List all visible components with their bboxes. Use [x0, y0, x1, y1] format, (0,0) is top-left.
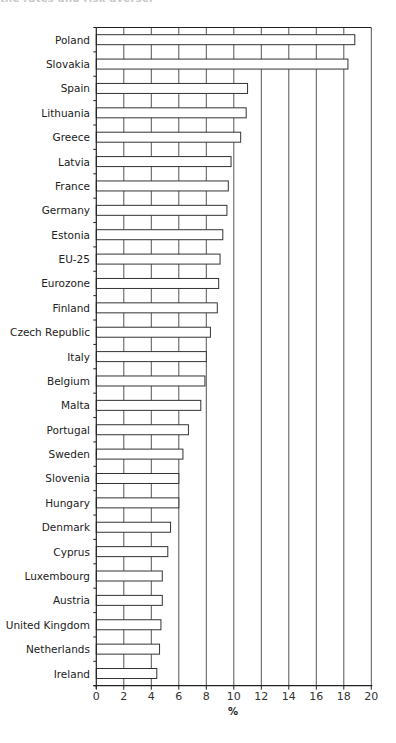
category-label: Greece — [53, 131, 90, 143]
category-label: Estonia — [51, 229, 90, 241]
bar — [96, 595, 162, 605]
category-label: Germany — [42, 204, 90, 216]
x-tick-label: 2 — [120, 691, 127, 703]
x-tick-label: 0 — [93, 691, 100, 703]
bar — [96, 352, 206, 362]
bar — [96, 376, 205, 386]
category-label: Denmark — [42, 521, 90, 533]
bar — [96, 473, 179, 483]
category-label: Sweden — [49, 448, 91, 460]
bar — [96, 205, 227, 215]
x-tick-label: 10 — [227, 691, 241, 703]
bar — [96, 230, 223, 240]
bar — [96, 108, 246, 118]
category-label: EU-25 — [59, 253, 90, 265]
bar — [96, 498, 179, 508]
category-label: Slovakia — [46, 58, 90, 70]
x-tick-label: 4 — [148, 691, 155, 703]
category-label: Lithuania — [41, 107, 90, 119]
x-tick-label: 8 — [203, 691, 210, 703]
bar — [96, 522, 170, 532]
category-label: Hungary — [45, 497, 90, 509]
category-label: Austria — [53, 594, 90, 606]
category-label: Latvia — [58, 156, 90, 168]
bar — [96, 181, 228, 191]
bar — [96, 278, 218, 288]
bar — [96, 157, 231, 167]
bar — [96, 132, 240, 142]
category-label: Luxembourg — [25, 570, 90, 582]
category-label: France — [55, 180, 90, 192]
category-label: Poland — [55, 34, 90, 46]
horizontal-bar-chart: PolandSlovakiaSpainLithuaniaGreeceLatvia… — [0, 0, 396, 743]
bar — [96, 83, 247, 93]
bar — [96, 571, 162, 581]
category-label: Eurozone — [41, 277, 90, 289]
category-label: United Kingdom — [6, 619, 90, 631]
bar — [96, 620, 161, 630]
category-label: Malta — [61, 399, 90, 411]
bar — [96, 400, 201, 410]
category-label: Czech Republic — [10, 326, 90, 338]
category-label: Italy — [67, 351, 90, 363]
category-label: Cyprus — [53, 546, 90, 558]
bar — [96, 644, 159, 654]
x-tick-label: 14 — [282, 691, 296, 703]
x-tick-label: 20 — [364, 691, 378, 703]
category-label: Belgium — [47, 375, 90, 387]
x-axis-title: % — [228, 706, 238, 717]
bar — [96, 35, 355, 45]
category-label: Netherlands — [26, 643, 90, 655]
bar — [96, 547, 168, 557]
x-tick-label: 12 — [254, 691, 268, 703]
bar — [96, 669, 157, 679]
bar — [96, 327, 210, 337]
x-tick-label: 18 — [337, 691, 351, 703]
bar — [96, 425, 188, 435]
x-tick-label: 6 — [175, 691, 182, 703]
category-label: Slovenia — [45, 472, 90, 484]
x-tick-label: 16 — [309, 691, 323, 703]
bar — [96, 449, 183, 459]
category-label: Ireland — [54, 668, 90, 680]
category-label: Portugal — [47, 424, 91, 436]
category-label: Finland — [52, 302, 90, 314]
bar — [96, 254, 220, 264]
category-label: Spain — [61, 82, 90, 94]
bar — [96, 59, 348, 69]
bar — [96, 303, 217, 313]
